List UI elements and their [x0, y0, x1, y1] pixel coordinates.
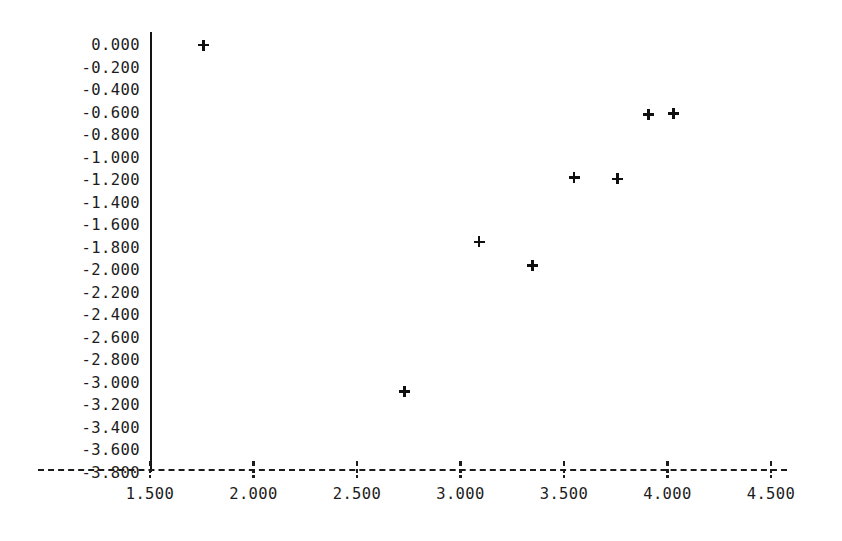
data-point-marker: [569, 172, 580, 183]
data-point-marker: [612, 173, 623, 184]
data-point-marker: [668, 108, 679, 119]
scatter-plot-canvas: 0.000-0.200-0.400-0.600-0.800-1.000-1.20…: [0, 0, 842, 541]
data-point-marker: [474, 236, 485, 247]
data-point-marker: [527, 260, 538, 271]
data-point-marker: [643, 109, 654, 120]
data-point-marker: [399, 386, 410, 397]
data-point-marker: [198, 40, 209, 51]
data-point-layer: [0, 0, 842, 541]
